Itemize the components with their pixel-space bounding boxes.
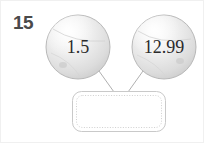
bubble-right-speckle [176,58,184,64]
connector-line-left [99,71,114,92]
bubble-left-speckle [59,62,67,68]
answer-box[interactable] [73,92,166,132]
bubble-right-value: 12.99 [132,37,196,57]
connector-line-right [128,71,143,92]
worksheet-canvas: 15 [0,0,204,143]
bubble-left-value: 1.5 [46,37,110,57]
diagram-graphics [1,1,204,143]
